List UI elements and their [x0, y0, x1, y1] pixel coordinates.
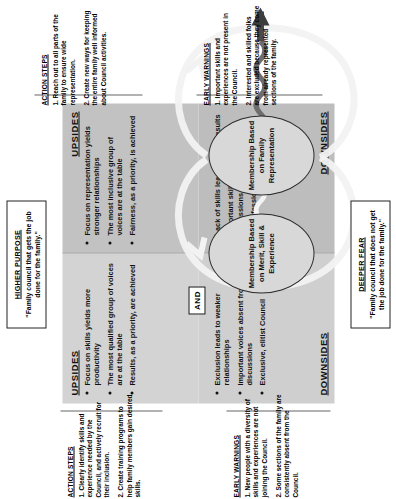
list-item: 1. Clearly identify skills and experienc… [77, 393, 110, 497]
higher-purpose-box: HIGHER PURPOSE "Family council that gets… [6, 200, 46, 328]
action-steps-right: ACTION STEPS 1. Reach out to all parts o… [40, 5, 113, 105]
action-steps-left-title: ACTION STEPS [66, 393, 73, 497]
deeper-fear-title: DEEPER FEAR [356, 207, 365, 321]
label-left-downsides: DOWNSIDES [317, 332, 328, 395]
list-right-upsides: Focus on representation yields stronger … [82, 112, 140, 244]
action-steps-right-title: ACTION STEPS [40, 5, 47, 105]
polarity-quadrant-panel: UPSIDES UPSIDES DOWNSIDES DOWNSIDES Focu… [62, 103, 334, 403]
list-left-upsides: Focus on skills yields more productivity… [82, 262, 140, 394]
early-warnings-right: EARLY WARNINGS 1. Important skills and e… [202, 5, 283, 105]
list-item: 2. Some sections of the family are consi… [274, 393, 299, 497]
label-right-upsides: UPSIDES [68, 111, 79, 156]
label-left-upsides: UPSIDES [68, 350, 79, 395]
list-item: Focus on representation yields stronger … [82, 112, 101, 244]
list-item: 2. Create new ways for keeping the entir… [82, 5, 107, 105]
label-right-downsides: DOWNSIDES [317, 111, 328, 174]
list-item: 2. Create training programs to help fami… [116, 393, 141, 497]
list-item: Fairness, as a priority, is achieved [127, 112, 136, 244]
list-item: The most inclusive group of voices are a… [105, 112, 124, 244]
deeper-fear-box: DEEPER FEAR "Family council that does no… [350, 200, 390, 328]
list-item: Results, as a priority, are achieved [127, 262, 136, 394]
action-steps-right-list: 1. Reach out to all parts of the family … [51, 5, 107, 105]
action-steps-left-list: 1. Clearly identify skills and experienc… [77, 393, 141, 497]
action-steps-left: ACTION STEPS 1. Clearly identify skills … [66, 393, 147, 497]
diagram-canvas: HIGHER PURPOSE "Family council that gets… [0, 0, 396, 499]
early-warnings-right-list: 1. Important skills and experiences are … [213, 5, 277, 105]
pole-right-oval: Membership Based on Family Representatio… [208, 115, 314, 195]
and-connector-box: AND [188, 286, 205, 314]
pole-left-oval: Membership Based on Merit, Skill & Exper… [208, 213, 314, 293]
list-item: 1. Reach out to all parts of the family … [51, 5, 76, 105]
list-item: 1. New people with a diversity of skills… [243, 393, 268, 497]
diagram-stage: HIGHER PURPOSE "Family council that gets… [0, 0, 396, 499]
list-item: 1. Important skills and experiences are … [213, 5, 238, 105]
higher-purpose-title: HIGHER PURPOSE [12, 207, 21, 321]
early-warnings-left: EARLY WARNINGS 1. New people with a dive… [232, 393, 305, 497]
list-item: The most qualified group of voices are a… [105, 262, 124, 394]
higher-purpose-text: "Family council that gets the job done f… [24, 207, 41, 321]
pole-right-name: Membership Based on Family Representatio… [246, 116, 276, 194]
and-connector-label: AND [192, 291, 201, 310]
deeper-fear-text: "Family council that does not get the jo… [368, 207, 385, 321]
list-item: Focus on skills yields more productivity [82, 262, 101, 394]
early-warnings-right-title: EARLY WARNINGS [202, 5, 209, 105]
early-warnings-left-title: EARLY WARNINGS [232, 393, 239, 497]
early-warnings-left-list: 1. New people with a diversity of skills… [243, 393, 299, 497]
rotated-diagram-canvas: HIGHER PURPOSE "Family council that gets… [0, 0, 396, 499]
pole-left-name: Membership Based on Merit, Skill & Exper… [246, 214, 276, 292]
list-item: 2. Interested and skilled folks are excl… [244, 5, 277, 105]
